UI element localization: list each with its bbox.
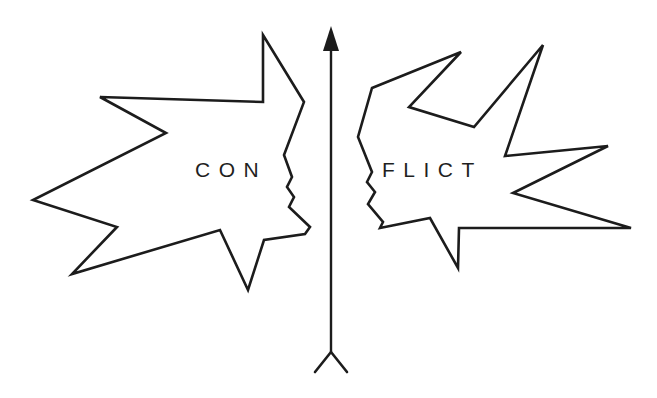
label-flict: FLICT xyxy=(382,159,483,180)
vertical-arrow xyxy=(315,26,347,372)
label-con: CON xyxy=(195,159,267,180)
conflict-illustration xyxy=(0,0,657,398)
arrow-tail-fletching-icon xyxy=(315,352,347,372)
left-burst-shape xyxy=(33,35,310,290)
right-burst-shape xyxy=(358,45,631,268)
diagram-canvas: CON FLICT xyxy=(0,0,657,398)
arrow-head-icon xyxy=(323,26,339,51)
